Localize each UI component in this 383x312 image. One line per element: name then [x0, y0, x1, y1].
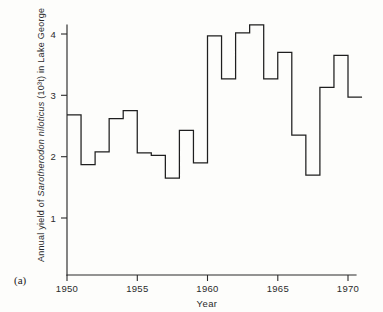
- x-axis-ticks: [67, 275, 348, 281]
- x-tick-label-1960: 1960: [196, 283, 218, 294]
- y-axis-title-species: Sarotherodon niloticus: [36, 101, 46, 196]
- x-axis-tick-labels: 1950 1955 1960 1965 1970: [56, 283, 359, 294]
- x-tick-label-1965: 1965: [267, 283, 289, 294]
- x-tick-label-1970: 1970: [337, 283, 359, 294]
- step-chart: 4 3 2 1 1950 1955 1960 1965 1970 Year An…: [0, 0, 383, 312]
- y-axis-ticks: [61, 34, 67, 218]
- y-axis-title-suffix: (10³t) in Lake George: [36, 8, 46, 102]
- y-tick-label-1: 1: [50, 213, 56, 224]
- figure-panel: 4 3 2 1 1950 1955 1960 1965 1970 Year An…: [0, 0, 383, 312]
- y-axis-title: Annual yield of Sarotherodon niloticus (…: [36, 8, 46, 262]
- panel-label: (a): [14, 274, 27, 287]
- y-tick-label-4: 4: [50, 29, 56, 40]
- x-axis-title: Year: [197, 298, 218, 309]
- y-tick-label-2: 2: [50, 151, 56, 162]
- x-tick-label-1950: 1950: [56, 283, 78, 294]
- y-tick-label-3: 3: [50, 90, 56, 101]
- y-axis-tick-labels: 4 3 2 1: [50, 29, 56, 224]
- data-series-step-line: [67, 25, 362, 178]
- y-axis-title-prefix: Annual yield of: [36, 196, 46, 262]
- x-tick-label-1955: 1955: [126, 283, 148, 294]
